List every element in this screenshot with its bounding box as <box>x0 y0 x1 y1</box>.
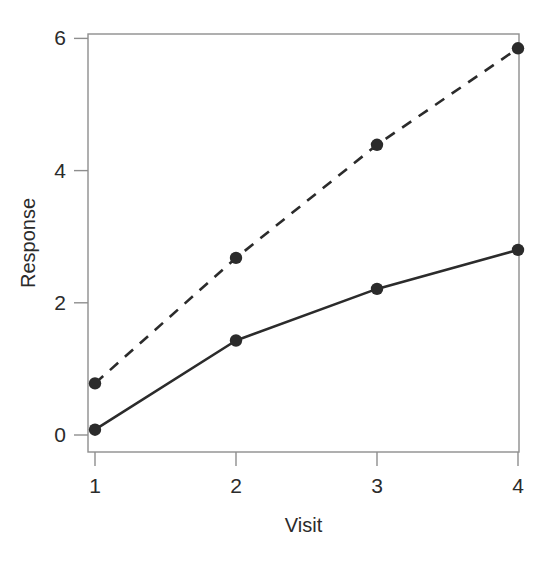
y-axis-title: Response <box>18 173 38 313</box>
data-point-marker <box>89 377 101 389</box>
chart-figure: 12340246 Visit Response <box>0 0 546 565</box>
y-axis-tick-label: 0 <box>26 424 66 445</box>
data-point-marker <box>512 42 524 54</box>
data-point-marker <box>89 424 101 436</box>
series-line <box>95 48 518 383</box>
data-point-marker <box>512 244 524 256</box>
data-point-marker <box>371 139 383 151</box>
series-line <box>95 250 518 430</box>
data-point-marker <box>371 283 383 295</box>
data-series-group <box>89 42 524 436</box>
plot-frame <box>88 34 519 452</box>
x-axis-tick-label: 4 <box>498 475 538 496</box>
x-axis-tick-label: 3 <box>357 475 397 496</box>
x-axis-tick-label: 2 <box>216 475 256 496</box>
x-axis-title: Visit <box>0 515 546 535</box>
x-axis-tick-label: 1 <box>75 475 115 496</box>
y-axis-tick-label: 6 <box>26 27 66 48</box>
data-point-marker <box>230 334 242 346</box>
data-point-marker <box>230 252 242 264</box>
